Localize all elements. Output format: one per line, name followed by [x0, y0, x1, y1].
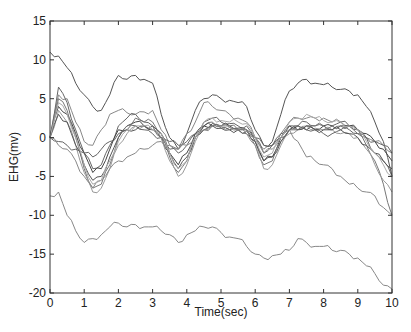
ehg-line-chart: 012345678910 151050-5-10-15-20 Time(sec)…	[0, 0, 411, 332]
y-tick-label: 10	[33, 53, 47, 67]
y-tick-label: 5	[39, 92, 46, 106]
y-tick-label: 15	[33, 14, 47, 28]
x-tick-label: 4	[183, 296, 190, 310]
x-tick-label: 7	[286, 296, 293, 310]
x-axis-label: Time(sec)	[195, 305, 248, 319]
x-tick-label: 3	[149, 296, 156, 310]
x-tick-label: 8	[320, 296, 327, 310]
y-tick-label: -20	[29, 286, 47, 300]
x-tick-label: 0	[47, 296, 54, 310]
chart-background	[0, 0, 411, 332]
x-tick-label: 9	[354, 296, 361, 310]
x-tick-label: 2	[115, 296, 122, 310]
x-tick-label: 6	[252, 296, 259, 310]
y-tick-label: 0	[39, 131, 46, 145]
x-tick-label: 10	[385, 296, 399, 310]
y-tick-label: -10	[29, 208, 47, 222]
y-axis-label: EHG(mv)	[7, 132, 21, 182]
y-tick-label: -15	[29, 247, 47, 261]
y-tick-label: -5	[35, 169, 46, 183]
x-tick-label: 1	[81, 296, 88, 310]
